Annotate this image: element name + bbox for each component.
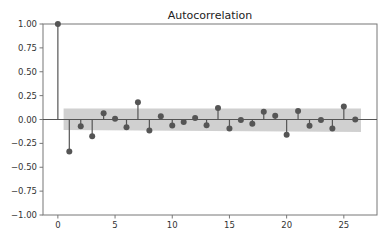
stem-marker xyxy=(112,116,118,122)
stem-marker xyxy=(89,133,95,139)
stem-marker xyxy=(135,99,141,105)
stem-marker xyxy=(169,123,175,129)
stem-marker xyxy=(352,117,358,123)
stem-marker xyxy=(101,110,107,116)
x-tick-label: 5 xyxy=(112,220,117,230)
y-tick-label: 1.00 xyxy=(18,19,37,29)
stem-marker xyxy=(215,105,221,111)
stem-marker xyxy=(66,148,72,154)
x-tick-label: 20 xyxy=(281,220,292,230)
stem-marker xyxy=(329,126,335,132)
y-tick-label: 0.25 xyxy=(18,91,37,101)
stem-marker xyxy=(261,109,267,115)
acf-point-lag-26 xyxy=(352,117,358,123)
stem-marker xyxy=(272,113,278,119)
stem-marker xyxy=(181,119,187,125)
autocorrelation-chart: Autocorrelation 1.000.750.500.250.00−0.2… xyxy=(0,0,388,244)
stem-marker xyxy=(341,104,347,110)
confidence-band xyxy=(64,109,361,132)
stem-marker xyxy=(284,132,290,138)
stem-marker xyxy=(318,117,324,123)
confidence-band-area xyxy=(64,109,361,132)
x-tick-label: 15 xyxy=(224,220,235,230)
stem-marker xyxy=(226,126,232,132)
acf-point-lag-5 xyxy=(112,116,118,122)
stem-marker xyxy=(249,121,255,127)
acf-point-lag-16 xyxy=(238,117,244,123)
y-tick-label: −0.50 xyxy=(11,162,37,172)
stem-marker xyxy=(238,117,244,123)
stem-marker xyxy=(146,127,152,133)
x-axis-ticks: 0510152025 xyxy=(55,215,349,230)
stem-marker xyxy=(192,115,198,121)
acf-point-lag-0 xyxy=(55,21,61,120)
acf-point-lag-23 xyxy=(318,117,324,123)
y-tick-label: −1.00 xyxy=(11,210,37,220)
y-tick-label: 0.00 xyxy=(18,115,37,125)
x-tick-label: 10 xyxy=(167,220,178,230)
y-tick-label: −0.75 xyxy=(11,186,37,196)
acf-point-lag-11 xyxy=(181,119,187,125)
chart-title: Autocorrelation xyxy=(168,9,253,22)
stem-marker xyxy=(204,122,210,128)
stem-marker xyxy=(55,21,61,27)
y-tick-label: −0.25 xyxy=(11,138,37,148)
y-axis-ticks: 1.000.750.500.250.00−0.25−0.50−0.75−1.00 xyxy=(11,19,43,220)
y-tick-label: 0.75 xyxy=(18,43,37,53)
x-tick-label: 0 xyxy=(55,220,60,230)
stem-marker xyxy=(78,123,84,129)
y-tick-label: 0.50 xyxy=(18,67,37,77)
stem-marker xyxy=(158,113,164,119)
acf-point-lag-12 xyxy=(192,115,198,121)
acf-stems xyxy=(55,21,358,154)
stem-marker xyxy=(295,108,301,114)
stem-marker xyxy=(307,123,313,129)
x-tick-label: 25 xyxy=(338,220,349,230)
stem-marker xyxy=(124,124,130,130)
